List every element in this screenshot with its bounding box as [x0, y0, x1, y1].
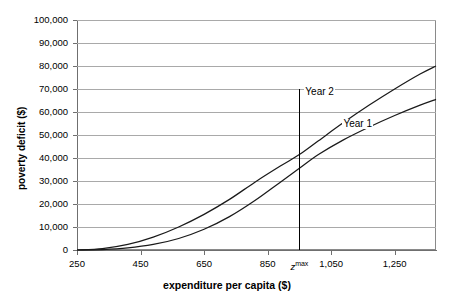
series-label-year-1: Year 1 [342, 119, 373, 129]
x-axis-title: expenditure per capita ($) [0, 279, 454, 291]
series-label-year-2: Year 2 [304, 87, 335, 97]
series-line-year-1 [77, 99, 436, 250]
series-curves [0, 0, 454, 305]
y-axis-title: poverty deficit ($) [16, 107, 27, 190]
zmax-marker [299, 89, 301, 250]
series-line-year-2 [77, 66, 436, 250]
poverty-deficit-chart: 010,00020,00030,00040,00050,00060,00070,… [0, 0, 454, 305]
